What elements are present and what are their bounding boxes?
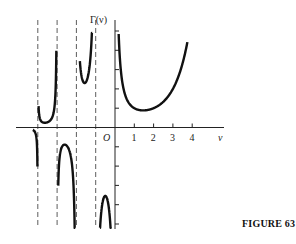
gamma-branch [80,33,92,83]
gamma-branch [39,51,57,123]
x-tick-label: 1 [132,132,137,143]
y-axis-label: Γ(ν) [90,14,107,26]
asymptote-lines [38,20,96,228]
origin-label: O [103,132,110,143]
gamma-chart: 1234 Γ(ν) ν O [0,0,296,244]
gamma-branch [33,130,37,167]
gamma-curves [33,33,187,228]
x-tick-label: 4 [189,132,194,143]
x-tick-label: 3 [170,132,175,143]
gamma-branch [119,34,188,110]
x-tick-label: 2 [151,132,156,143]
gamma-branch [100,196,112,228]
gamma-branch [58,145,75,228]
x-ticks: 1234 [132,124,195,144]
figure-caption: FIGURE 63 [242,218,295,229]
x-axis-label: ν [218,132,223,143]
